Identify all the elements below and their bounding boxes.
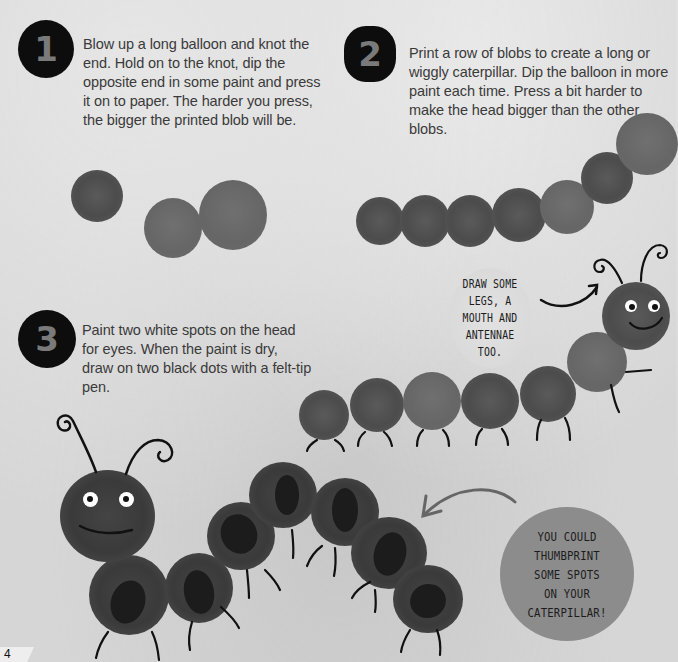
mouth xyxy=(630,318,662,329)
mouth xyxy=(80,526,132,533)
curved-arrow-icon xyxy=(423,490,515,516)
antenna-icon xyxy=(126,440,172,474)
antenna-icon xyxy=(594,260,622,283)
antenna-icon xyxy=(641,245,667,281)
curved-arrow-icon xyxy=(541,287,597,306)
antenna-icon xyxy=(58,415,96,472)
page-number-text: 4 xyxy=(4,647,11,661)
